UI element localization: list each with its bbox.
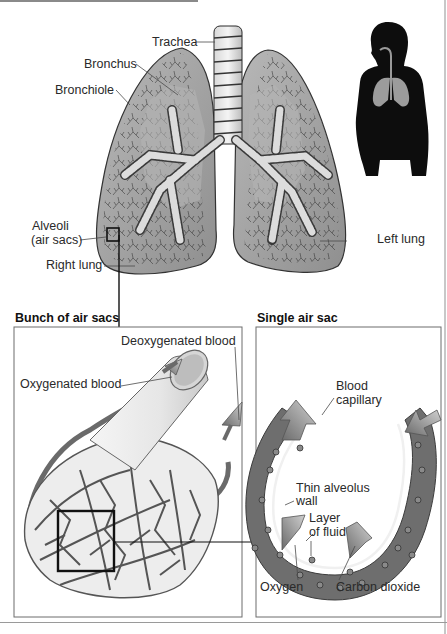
label-air-sacs: (air sacs) [31,233,82,247]
label-alveoli: Alveoli [32,219,69,233]
heading-bunch-of-air-sacs: Bunch of air sacs [15,311,119,325]
label-wall: wall [296,494,318,508]
single-air-sac [246,398,441,600]
label-capillary: capillary [336,393,382,407]
trachea [214,26,242,144]
label-oxygenated-blood: Oxygenated blood [20,377,121,391]
label-of-fluid: of fluid [309,525,346,539]
heading-single-air-sac: Single air sac [257,311,338,325]
label-carbon-dioxide: Carbon dioxide [336,580,420,594]
respiratory-diagram: Trachea Bronchus Bronchiole Alveoli (air… [0,0,447,634]
label-bronchus: Bronchus [84,57,137,71]
label-trachea: Trachea [152,35,197,49]
human-silhouette-icon [356,22,429,176]
label-layer: Layer [309,511,340,525]
label-bronchiole: Bronchiole [55,83,114,97]
label-left-lung: Left lung [377,232,425,246]
label-deoxygenated-blood: Deoxygenated blood [121,334,236,348]
label-oxygen: Oxygen [260,580,303,594]
label-blood: Blood [336,379,368,393]
label-right-lung: Right lung [46,258,102,272]
